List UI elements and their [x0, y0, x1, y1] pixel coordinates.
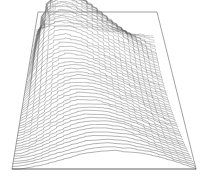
trace-line	[29, 0, 160, 72]
waterfall-plot-figure	[0, 0, 209, 182]
trace-line	[17, 110, 184, 142]
trace-line	[36, 21, 154, 37]
trace-lines-group	[12, 0, 196, 169]
trace-line	[29, 2, 161, 75]
frame-right-edge	[157, 12, 196, 169]
trace-line	[18, 104, 182, 137]
frame-left-edge	[12, 12, 38, 169]
trace-line	[21, 74, 174, 118]
trace-line	[30, 0, 160, 70]
plot-canvas	[0, 0, 209, 182]
